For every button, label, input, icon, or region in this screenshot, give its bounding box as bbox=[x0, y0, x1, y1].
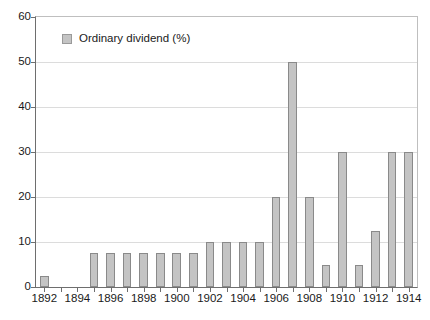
y-tick-label: 0 bbox=[1, 281, 31, 293]
bar bbox=[172, 253, 181, 287]
x-tick-label: 1910 bbox=[330, 293, 356, 305]
y-tick-label: 50 bbox=[1, 56, 31, 68]
bar bbox=[222, 242, 231, 287]
x-tick-mark bbox=[193, 288, 194, 292]
bar bbox=[305, 197, 314, 287]
x-tick-mark bbox=[61, 288, 62, 292]
gridline bbox=[36, 62, 417, 63]
legend-label: Ordinary dividend (%) bbox=[79, 33, 190, 45]
x-tick-label: 1892 bbox=[31, 293, 57, 305]
plot-inner bbox=[36, 17, 417, 287]
gridline bbox=[36, 152, 417, 153]
x-tick-mark bbox=[392, 288, 393, 292]
bar bbox=[189, 253, 198, 287]
x-tick-label: 1906 bbox=[263, 293, 289, 305]
x-tick-mark bbox=[127, 288, 128, 292]
x-tick-label: 1904 bbox=[230, 293, 256, 305]
y-axis: 0102030405060 bbox=[0, 16, 31, 288]
bar bbox=[404, 152, 413, 287]
bar bbox=[123, 253, 132, 287]
gridline bbox=[36, 197, 417, 198]
bar bbox=[139, 253, 148, 287]
bar bbox=[272, 197, 281, 287]
x-tick-mark bbox=[359, 288, 360, 292]
bar bbox=[338, 152, 347, 287]
plot-area bbox=[35, 16, 418, 288]
bar bbox=[156, 253, 165, 287]
x-tick-label: 1900 bbox=[164, 293, 190, 305]
x-tick-mark bbox=[326, 288, 327, 292]
y-tick-label: 30 bbox=[1, 146, 31, 158]
bar bbox=[288, 62, 297, 287]
x-tick-label: 1912 bbox=[363, 293, 389, 305]
bar bbox=[239, 242, 248, 287]
bar bbox=[206, 242, 215, 287]
x-tick-label: 1896 bbox=[98, 293, 124, 305]
bar bbox=[40, 276, 49, 287]
bar-chart: 0102030405060 18921894189618981900190219… bbox=[0, 0, 430, 320]
x-axis: 1892189418961898190019021904190619081910… bbox=[35, 288, 418, 316]
x-tick-mark bbox=[260, 288, 261, 292]
x-tick-label: 1902 bbox=[197, 293, 223, 305]
bar bbox=[106, 253, 115, 287]
x-tick-mark bbox=[227, 288, 228, 292]
x-tick-label: 1894 bbox=[65, 293, 91, 305]
bar bbox=[371, 231, 380, 287]
legend-swatch-icon bbox=[62, 34, 72, 44]
bar bbox=[255, 242, 264, 287]
x-tick-label: 1908 bbox=[297, 293, 323, 305]
x-tick-mark bbox=[293, 288, 294, 292]
x-tick-label: 1914 bbox=[396, 293, 422, 305]
bar bbox=[388, 152, 397, 287]
y-tick-label: 20 bbox=[1, 191, 31, 203]
y-tick-label: 60 bbox=[1, 11, 31, 23]
bar bbox=[322, 265, 331, 288]
bar bbox=[355, 265, 364, 288]
y-tick-label: 40 bbox=[1, 101, 31, 113]
x-tick-mark bbox=[94, 288, 95, 292]
gridline bbox=[36, 107, 417, 108]
x-tick-mark bbox=[160, 288, 161, 292]
chart-legend: Ordinary dividend (%) bbox=[62, 33, 190, 45]
y-tick-label: 10 bbox=[1, 236, 31, 248]
x-tick-label: 1898 bbox=[131, 293, 157, 305]
bar bbox=[90, 253, 99, 287]
